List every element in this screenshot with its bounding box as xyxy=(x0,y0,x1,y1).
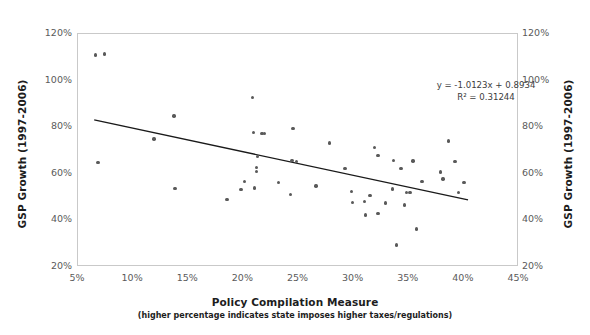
data-point xyxy=(411,159,414,162)
y-tick-label-right: 80% xyxy=(522,120,562,131)
regression-annotation: y = -1.0123x + 0.8934 R² = 0.31244 xyxy=(396,79,576,104)
data-point xyxy=(225,198,228,201)
data-point xyxy=(290,159,293,162)
data-point xyxy=(328,141,331,144)
data-point xyxy=(253,186,256,189)
y-tick-label-left: 60% xyxy=(32,167,72,178)
y-tick-label-right: 60% xyxy=(522,167,562,178)
data-point xyxy=(255,170,258,173)
data-point xyxy=(363,200,366,203)
x-tick-label: 20% xyxy=(222,272,262,283)
data-point xyxy=(408,191,411,194)
data-point xyxy=(395,243,398,246)
regression-r-squared: R² = 0.31244 xyxy=(396,91,576,103)
x-tick-label: 45% xyxy=(498,272,538,283)
data-point xyxy=(152,137,155,140)
x-tick-label: 35% xyxy=(388,272,428,283)
data-point xyxy=(256,155,259,158)
y-axis-ticks-right: 20%40%60%80%100%120% xyxy=(522,33,566,266)
data-point xyxy=(453,160,456,163)
y-tick-label-right: 20% xyxy=(522,260,562,271)
x-tick-label: 10% xyxy=(112,272,152,283)
data-point xyxy=(243,180,246,183)
x-axis-ticks: 5%10%15%20%25%30%35%40%45% xyxy=(77,272,518,288)
data-point xyxy=(457,191,460,194)
data-point xyxy=(94,53,97,56)
data-point xyxy=(96,161,99,164)
data-point xyxy=(350,190,353,193)
data-point xyxy=(291,127,294,130)
x-tick-label: 40% xyxy=(443,272,483,283)
x-axis-subtitle: (higher percentage indicates state impos… xyxy=(0,311,590,320)
data-point xyxy=(364,213,367,216)
data-point xyxy=(351,201,354,204)
data-point xyxy=(263,132,266,135)
y-tick-label-left: 20% xyxy=(32,260,72,271)
data-point xyxy=(103,52,106,55)
data-point xyxy=(399,167,402,170)
data-point xyxy=(376,212,379,215)
data-point xyxy=(173,187,176,190)
y-tick-label-right: 40% xyxy=(522,213,562,224)
x-axis-title: Policy Compilation Measure xyxy=(0,296,590,308)
data-point xyxy=(172,114,175,117)
data-point xyxy=(403,203,406,206)
data-point xyxy=(447,139,450,142)
data-point xyxy=(368,194,371,197)
data-point xyxy=(373,146,376,149)
y-axis-title-left: GSP Growth (1997-2006) xyxy=(16,74,28,234)
data-point xyxy=(384,201,387,204)
data-points-layer xyxy=(78,34,517,265)
data-point xyxy=(295,160,298,163)
data-point xyxy=(255,166,258,169)
data-point xyxy=(239,188,242,191)
data-point xyxy=(420,180,423,183)
data-point xyxy=(415,227,418,230)
y-tick-label-left: 120% xyxy=(32,27,72,38)
data-point xyxy=(277,181,280,184)
regression-equation: y = -1.0123x + 0.8934 xyxy=(396,79,576,91)
x-tick-label: 5% xyxy=(57,272,97,283)
data-point xyxy=(251,96,254,99)
data-point xyxy=(376,154,379,157)
data-point xyxy=(441,177,444,180)
x-axis-title-group: Policy Compilation Measure (higher perce… xyxy=(0,296,590,320)
data-point xyxy=(343,167,346,170)
y-tick-label-left: 80% xyxy=(32,120,72,131)
y-axis-ticks-left: 20%40%60%80%100%120% xyxy=(28,33,72,266)
data-point xyxy=(392,159,395,162)
data-point xyxy=(314,184,317,187)
scatter-chart: GSP Growth (1997-2006) GSP Growth (1997-… xyxy=(0,0,590,335)
data-point xyxy=(391,187,394,190)
data-point xyxy=(289,193,292,196)
y-tick-label-left: 40% xyxy=(32,213,72,224)
x-tick-label: 30% xyxy=(333,272,373,283)
data-point xyxy=(439,170,442,173)
x-tick-label: 25% xyxy=(278,272,318,283)
data-point xyxy=(462,181,465,184)
plot-area: y = -1.0123x + 0.8934 R² = 0.31244 xyxy=(77,33,518,266)
y-tick-label-left: 100% xyxy=(32,74,72,85)
data-point xyxy=(252,131,255,134)
y-tick-label-right: 120% xyxy=(522,27,562,38)
x-tick-label: 15% xyxy=(167,272,207,283)
